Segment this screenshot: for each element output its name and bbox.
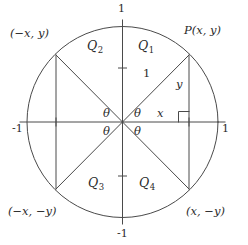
quadrant-label-q2: Q2 (87, 40, 103, 53)
quadrant-label-q3: Q3 (88, 177, 104, 190)
point-label-second-quadrant: (−x, y) (10, 28, 49, 40)
angle-label-q4: θ (134, 126, 141, 138)
quadrant-q4-index: 4 (150, 182, 155, 192)
segment-label-adjacent-x: x (157, 108, 164, 120)
segment-label-radius: 1 (143, 68, 150, 80)
ray-to-q4-point (123, 122, 190, 189)
segment-label-opposite-y: y (176, 79, 183, 91)
quadrant-q3-index: 3 (99, 182, 104, 192)
quadrant-q2-letter: Q (87, 38, 97, 53)
axis-label-left: -1 (12, 123, 23, 134)
quadrant-q4-letter: Q (139, 175, 149, 190)
quadrant-q2-index: 2 (98, 45, 103, 55)
quadrant-q1-index: 1 (149, 45, 154, 55)
quadrant-q3-letter: Q (88, 175, 98, 190)
unit-circle-figure: 1 -1 -1 1 P(x, y) (−x, y) (−x, −y) (x, −… (0, 0, 248, 245)
quadrant-q1-letter: Q (138, 38, 148, 53)
quadrant-label-q1: Q1 (138, 40, 154, 53)
angle-label-q2: θ (103, 108, 110, 120)
axis-label-top: 1 (118, 3, 125, 14)
point-label-fourth-quadrant: (x, −y) (186, 206, 225, 218)
angle-label-q1: θ (134, 108, 141, 120)
axis-label-bottom: -1 (117, 228, 128, 239)
ray-to-q2-point (56, 55, 123, 122)
quadrant-label-q4: Q4 (139, 177, 155, 190)
point-label-third-quadrant: (−x, −y) (8, 206, 57, 218)
point-label-p-first-quadrant: P(x, y) (184, 25, 221, 37)
axis-label-right: 1 (222, 123, 229, 134)
right-angle-marker (179, 112, 190, 123)
angle-label-q3: θ (103, 126, 110, 138)
